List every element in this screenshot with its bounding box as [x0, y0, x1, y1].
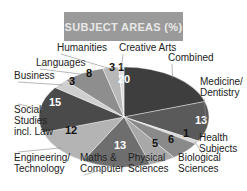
slice-value-label: 6	[168, 133, 174, 145]
category-label: Business	[14, 70, 55, 81]
slice-value-label: 12	[65, 124, 77, 136]
svg-text:Combined: Combined	[168, 52, 214, 63]
svg-text:Medicine/: Medicine/	[200, 76, 243, 87]
slice-value-label: 3	[69, 75, 75, 87]
svg-text:Studies: Studies	[14, 115, 47, 126]
category-label: Engineering/Technology	[14, 152, 70, 174]
slice-value-label: 13	[114, 139, 126, 151]
slice-value-label: 3	[109, 61, 115, 73]
slice-value-label: 20	[118, 73, 130, 85]
slice-value-label: 1	[118, 61, 124, 73]
svg-text:Sciences: Sciences	[128, 163, 169, 174]
svg-text:Languages: Languages	[36, 57, 86, 68]
svg-text:Technology: Technology	[14, 163, 65, 174]
svg-text:Computer: Computer	[80, 163, 125, 174]
svg-text:incl. Law: incl. Law	[14, 126, 54, 137]
slice-value-label: 5	[152, 137, 158, 149]
svg-text:Biological: Biological	[178, 152, 221, 163]
category-label: Languages	[36, 57, 86, 68]
slice-value-label: 15	[49, 96, 61, 108]
leader-line	[18, 82, 62, 85]
category-label: BiologicalSciences	[178, 152, 221, 174]
svg-text:Dentistry: Dentistry	[200, 87, 239, 98]
svg-text:Engineering/: Engineering/	[14, 152, 70, 163]
svg-text:Creative Arts: Creative Arts	[119, 42, 176, 53]
pie-chart: 20131651312153831CombinedMedicine/Dentis…	[0, 0, 247, 191]
slice-value-label: 1	[183, 127, 189, 139]
slice-value-label: 8	[86, 67, 92, 79]
category-label: HealthSubjects	[199, 132, 237, 154]
category-label: Combined	[168, 52, 214, 63]
category-label: Creative Arts	[119, 42, 176, 53]
svg-text:Sciences: Sciences	[178, 163, 219, 174]
svg-text:Physical: Physical	[128, 152, 165, 163]
svg-text:Health: Health	[199, 132, 228, 143]
svg-text:Business: Business	[14, 70, 55, 81]
category-label: Medicine/Dentistry	[200, 76, 243, 98]
svg-text:Humanities: Humanities	[57, 42, 107, 53]
category-label: PhysicalSciences	[128, 152, 169, 174]
svg-text:Social: Social	[14, 104, 41, 115]
svg-text:Maths &: Maths &	[80, 152, 117, 163]
category-label: Humanities	[57, 42, 107, 53]
